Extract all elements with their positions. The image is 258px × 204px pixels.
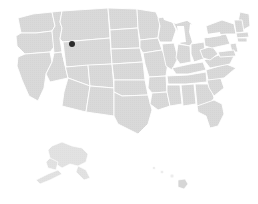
map-marker-montana[interactable]	[69, 41, 75, 47]
marker-layer	[0, 0, 258, 204]
us-map-figure	[0, 0, 258, 204]
